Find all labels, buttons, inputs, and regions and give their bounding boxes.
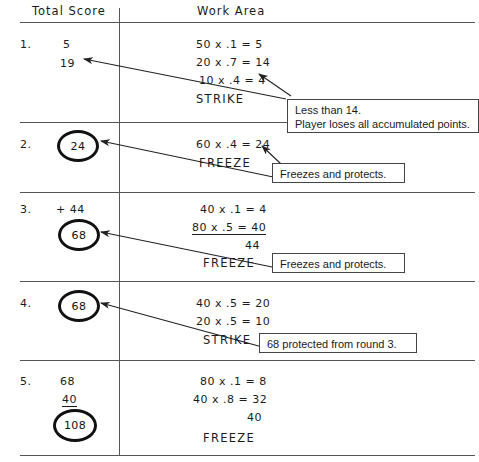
column-header-work-area: Work Area	[197, 4, 265, 18]
row-5-circled-total: 108	[53, 409, 97, 442]
row-4-work-line-1: 40 x .5 = 20	[196, 297, 270, 310]
row-separator-4	[20, 360, 475, 361]
row-3-score-1: + 44	[56, 203, 85, 216]
row-5-score-1: 68	[60, 375, 75, 388]
row-2-work-line-1: 60 x .4 = 24	[196, 138, 270, 151]
table-bottom-rule	[20, 455, 475, 456]
row-5-work-subtotal: 40	[247, 411, 262, 424]
row-2-result: FREEZE	[199, 156, 251, 170]
row-1-score-1: 5	[63, 38, 71, 51]
callout-protected-note: 68 protected from round 3.	[259, 333, 417, 353]
callout-strike-rule-line2: Player loses all accumulated points.	[295, 117, 472, 131]
row-2-circled-total: 24	[57, 130, 99, 162]
row-1-work-line-1: 50 x .1 = 5	[196, 38, 263, 51]
row-number-4: 4.	[20, 297, 32, 310]
header-underline	[20, 22, 475, 23]
column-header-total-score: Total Score	[32, 4, 106, 18]
row-3-circled-total: 68	[58, 219, 100, 251]
callout-strike-rule-line1: Less than 14.	[295, 103, 472, 117]
callout-freeze-round2: Freezes and protects.	[272, 163, 405, 183]
row-5-work-line-2: 40 x .8 = 32	[193, 393, 267, 406]
row-4-circled-total: 68	[58, 290, 100, 322]
callout-strike-rule: Less than 14. Player loses all accumulat…	[287, 99, 479, 133]
callout-protected-note-line1: 68 protected from round 3.	[267, 337, 410, 351]
row-separator-3	[20, 281, 475, 282]
row-number-2: 2.	[20, 138, 32, 151]
row-1-score-2: 19	[60, 57, 75, 70]
column-divider	[119, 8, 120, 455]
row-1-work-line-2: 20 x .7 = 14	[196, 56, 270, 69]
callout-freeze-round3: Freezes and protects.	[272, 253, 405, 273]
row-1-work-line-3: 10 x .4 = 4	[199, 74, 266, 87]
row-3-work-subtotal: 44	[245, 239, 260, 252]
row-3-work-line-2: 80 x .5 = 40	[192, 221, 266, 235]
worksheet-page: Total Score Work Area 1. 5 19 50 x .1 = …	[0, 0, 479, 462]
row-4-result: STRIKE	[203, 333, 251, 347]
row-1-result: STRIKE	[196, 92, 244, 106]
row-4-work-line-2: 20 x .5 = 10	[196, 315, 270, 328]
row-5-score-2: 40	[62, 393, 77, 407]
callout-freeze-round3-line1: Freezes and protects.	[280, 257, 398, 271]
row-5-result: FREEZE	[203, 431, 255, 445]
row-number-1: 1.	[20, 38, 32, 51]
callout-freeze-round2-line1: Freezes and protects.	[280, 167, 398, 181]
row-3-work-line-1: 40 x .1 = 4	[200, 203, 267, 216]
row-5-work-line-1: 80 x .1 = 8	[200, 375, 267, 388]
row-3-result: FREEZE	[203, 256, 255, 270]
row-number-5: 5.	[20, 375, 32, 388]
row-separator-2	[20, 192, 475, 193]
row-number-3: 3.	[20, 203, 32, 216]
